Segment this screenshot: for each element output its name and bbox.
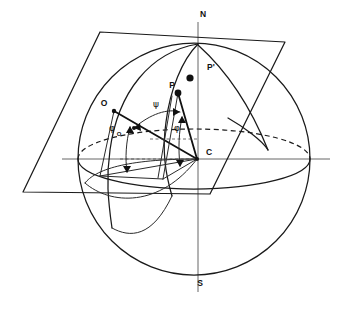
label-angle-psi: ψ — [153, 99, 159, 109]
label-center-c: C — [206, 147, 212, 157]
label-angle-phi-zero: φ — [109, 123, 115, 133]
label-north-pole: N — [200, 9, 206, 19]
diagram-canvas: N S C O P P' ψ φ φ O — [0, 0, 345, 309]
point-marker-p-prime — [186, 74, 193, 81]
spherical-diagram-figure: N S C O P P' ψ φ φ O — [0, 0, 345, 309]
point-marker-psi-start — [132, 126, 136, 130]
label-angle-phi-zero-subscript: O — [117, 131, 122, 137]
canvas-background — [0, 0, 345, 309]
point-marker-o — [112, 109, 116, 113]
point-marker-c — [195, 157, 199, 161]
label-point-p-prime: P' — [207, 62, 215, 72]
label-south-pole: S — [197, 278, 203, 288]
label-point-o: O — [101, 98, 108, 108]
point-marker-p — [175, 90, 182, 97]
label-angle-phi: φ — [174, 123, 180, 133]
label-point-p: P — [169, 80, 175, 90]
